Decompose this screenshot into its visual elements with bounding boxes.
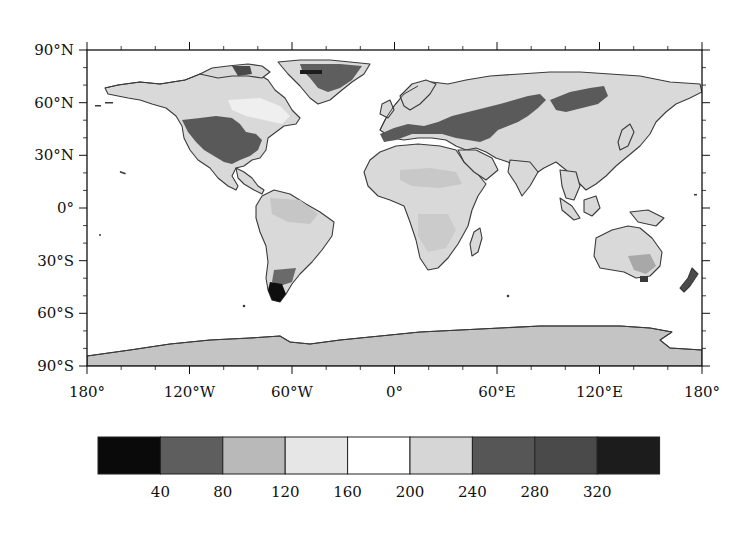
- colorbar: [98, 437, 660, 474]
- colorbar-bin-4: [348, 437, 410, 474]
- colorbar-label: 240: [458, 483, 487, 501]
- x-tick-label: 120°W: [164, 383, 216, 401]
- colorbar-labels: 40 80 120 160 200 240 280 320: [151, 483, 612, 501]
- map-figure: 90°N 60°N 30°N 0° 30°S 60°S 90°S 180° 12…: [0, 0, 745, 534]
- colorbar-bin-1: [160, 437, 222, 474]
- colorbar-label: 80: [213, 483, 232, 501]
- y-axis-labels: 90°N 60°N 30°N 0° 30°S 60°S 90°S: [34, 41, 74, 375]
- y-tick-label: 90°N: [34, 41, 74, 59]
- x-tick-label: 180°: [69, 383, 105, 401]
- y-tick-label: 30°S: [37, 252, 74, 270]
- colorbar-label: 200: [396, 483, 425, 501]
- colorbar-label: 160: [333, 483, 362, 501]
- colorbar-label: 120: [271, 483, 300, 501]
- map-plot-area: [87, 50, 702, 366]
- y-tick-label: 90°S: [37, 357, 74, 375]
- colorbar-label: 280: [520, 483, 549, 501]
- colorbar-bin-8: [597, 437, 659, 474]
- colorbar-bin-7: [535, 437, 597, 474]
- y-tick-label: 30°N: [34, 146, 74, 164]
- y-tick-label: 60°S: [37, 304, 74, 322]
- x-tick-label: 0°: [386, 383, 403, 401]
- colorbar-bin-5: [410, 437, 472, 474]
- x-tick-label: 180°: [684, 383, 720, 401]
- colorbar-bin-6: [472, 437, 534, 474]
- colorbar-bin-3: [285, 437, 347, 474]
- y-tick-label: 0°: [57, 199, 74, 217]
- colorbar-bin-0: [98, 437, 160, 474]
- x-tick-label: 60°E: [478, 383, 516, 401]
- x-tick-label: 120°E: [576, 383, 623, 401]
- colorbar-label: 320: [583, 483, 612, 501]
- region-greenland-darkest: [300, 70, 322, 74]
- colorbar-label: 40: [151, 483, 170, 501]
- x-tick-label: 60°W: [271, 383, 314, 401]
- colorbar-bin-2: [223, 437, 285, 474]
- region-tasmania-dark: [640, 276, 648, 282]
- x-axis-labels: 180° 120°W 60°W 0° 60°E 120°E 180°: [69, 383, 720, 401]
- y-tick-label: 60°N: [34, 94, 74, 112]
